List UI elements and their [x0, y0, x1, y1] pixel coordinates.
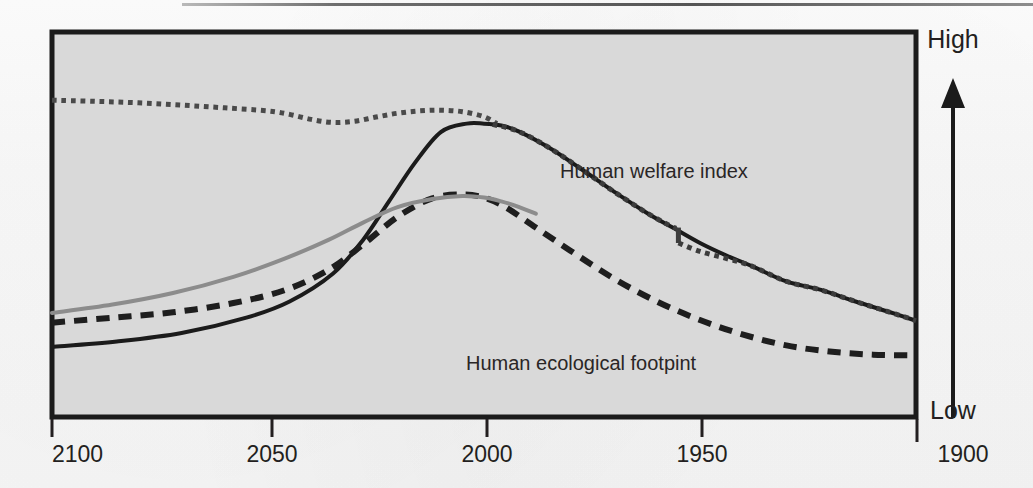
figure-container: 2100 2050 2000 1950 1900 High Low Human …: [0, 0, 1033, 488]
x-tick-label-2100: 2100: [52, 441, 103, 467]
x-axis-ticks: [52, 419, 917, 442]
x-tick-label-1900: 1900: [937, 441, 988, 467]
x-tick-label-2000: 2000: [461, 441, 512, 467]
up-arrow-icon: [941, 78, 965, 418]
x-tick-label-1950: 1950: [676, 441, 727, 467]
y-axis-low-label: Low: [930, 396, 977, 424]
y-axis-high-label: High: [927, 25, 978, 53]
series-label-welfare: Human welfare index: [560, 160, 748, 182]
series-label-footprint: Human ecological footpint: [466, 352, 697, 374]
x-tick-label-2050: 2050: [246, 441, 297, 467]
chart-svg: 2100 2050 2000 1950 1900 High Low Human …: [0, 0, 1033, 488]
